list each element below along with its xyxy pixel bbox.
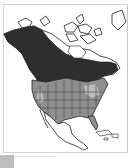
winter-range xyxy=(32,78,108,124)
legend-tab xyxy=(0,155,14,168)
range-map xyxy=(0,0,134,168)
greenland-edge xyxy=(112,10,126,30)
florida xyxy=(88,116,98,130)
caribbean xyxy=(96,130,118,140)
legend-divider xyxy=(14,156,54,157)
